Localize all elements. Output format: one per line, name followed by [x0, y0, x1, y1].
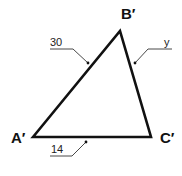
side-label-ac: 14	[51, 143, 63, 155]
triangle-diagram: B′ A′ C′ 30 y 14	[0, 0, 182, 176]
diagram-canvas: B′ A′ C′ 30 y 14	[0, 0, 182, 176]
leader-dot-bc	[134, 62, 137, 65]
side-label-ab: 30	[50, 36, 62, 48]
leader-dot-ab	[87, 62, 90, 65]
vertex-label-a: A′	[11, 129, 26, 146]
side-label-bc: y	[164, 36, 170, 48]
vertex-label-b: B′	[121, 5, 136, 22]
leader-line-ab	[50, 49, 88, 63]
vertex-label-c: C′	[160, 129, 175, 146]
leader-dot-ac	[85, 141, 88, 144]
leader-line-bc	[135, 49, 172, 63]
